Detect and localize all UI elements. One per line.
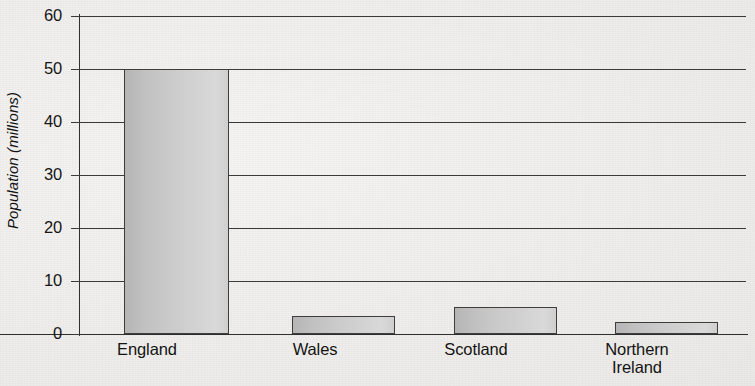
gridline-60: [80, 16, 746, 17]
y-tick-mark-50: [71, 69, 80, 70]
y-tick-mark-60: [71, 16, 80, 17]
y-tick-label-40: 40: [16, 113, 62, 130]
y-tick-mark-10: [71, 281, 80, 282]
x-label-northern-ireland-line-1: Northern: [567, 341, 707, 359]
y-tick-label-0: 0: [16, 325, 62, 342]
x-label-england: England: [77, 341, 217, 359]
x-label-scotland-line-1: Scotland: [406, 341, 546, 359]
bar-england: [124, 69, 229, 334]
x-axis-line: [0, 334, 748, 335]
y-tick-label-10: 10: [16, 272, 62, 289]
y-tick-mark-20: [71, 228, 80, 229]
bar-scotland: [454, 307, 557, 334]
plot-area: [80, 16, 746, 334]
x-label-wales: Wales: [245, 341, 385, 359]
x-label-northern-ireland-line-2: Ireland: [567, 359, 707, 377]
y-axis-title: Population (millions): [4, 56, 21, 266]
bar-northern-ireland: [615, 322, 718, 334]
bar-chart-figure: 60 50 40 30 20 10 0 Population (millions…: [0, 0, 755, 386]
bar-wales: [292, 316, 395, 334]
y-tick-label-20: 20: [16, 219, 62, 236]
y-tick-label-50: 50: [16, 60, 62, 77]
y-tick-mark-40: [71, 122, 80, 123]
x-label-england-line-1: England: [77, 341, 217, 359]
x-label-wales-line-1: Wales: [245, 341, 385, 359]
y-tick-label-60: 60: [16, 7, 62, 24]
x-label-northern-ireland: Northern Ireland: [567, 341, 707, 377]
x-label-scotland: Scotland: [406, 341, 546, 359]
y-tick-label-30: 30: [16, 166, 62, 183]
y-tick-mark-30: [71, 175, 80, 176]
y-tick-mark-0: [71, 334, 80, 335]
